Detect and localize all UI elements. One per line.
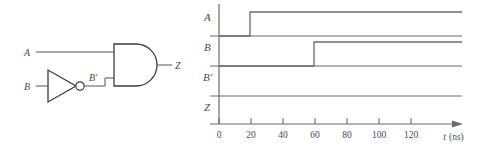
timing-signal-label-b: B [204,41,211,53]
circuit-input-a-label: A [23,47,31,58]
figure-root: A B B′ Z A [0,0,494,151]
timing-tick-label-100: 100 [372,130,387,140]
timing-signal-label-bprime: B′ [203,71,213,83]
time-axis-arrow-icon [452,121,463,128]
circuit-input-b-label: B [24,81,30,92]
timing-signal-label-a: A [203,11,211,23]
timing-tick-label-120: 120 [404,130,419,140]
timing-diagram-group: A B B′ Z 0 20 40 [203,4,464,143]
and-gate-body [114,44,157,86]
time-axis-caption-variable: t [443,132,446,142]
timing-signal-label-z: Z [204,101,211,113]
timing-tick-label-80: 80 [342,130,352,140]
circuit-output-z-label: Z [175,60,181,71]
timing-tick-label-60: 60 [310,130,320,140]
figure-canvas: A B B′ Z A [0,0,494,151]
timing-tick-label-20: 20 [246,130,256,140]
logic-circuit-group: A B B′ Z [23,44,181,102]
timing-waveform-b [219,42,462,66]
timing-tick-label-40: 40 [278,130,288,140]
timing-tick-label-0: 0 [217,130,222,140]
circuit-net-bprime-label: B′ [89,72,98,83]
inverter-bubble-icon [76,82,84,90]
timing-waveform-a [219,12,462,36]
time-axis-caption-unit: (ns) [449,132,464,143]
inverter-gate-body [48,70,76,102]
